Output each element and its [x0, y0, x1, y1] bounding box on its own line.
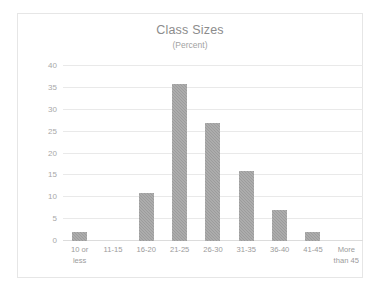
- bar-slot: [130, 66, 163, 241]
- y-axis-tick-label: 25: [48, 126, 57, 135]
- x-axis-tick-label: 36-40: [263, 245, 296, 266]
- bar-slot: [163, 66, 196, 241]
- bar[interactable]: [172, 84, 187, 242]
- x-axis-tick-label: 16-20: [130, 245, 163, 266]
- x-axis-tick-label: 11-15: [96, 245, 129, 266]
- chart-title: Class Sizes: [18, 23, 362, 38]
- y-axis-tick-label: 40: [48, 61, 57, 70]
- bar-slot: [96, 66, 129, 241]
- y-axis-tick-label: 35: [48, 82, 57, 91]
- chart-title-block: Class Sizes (Percent): [18, 23, 362, 51]
- bar[interactable]: [239, 171, 254, 241]
- bar[interactable]: [205, 123, 220, 241]
- bar-slot: [63, 66, 96, 241]
- bar-series: [63, 66, 363, 241]
- bar-slot: [263, 66, 296, 241]
- y-axis-tick-label: 30: [48, 104, 57, 113]
- bar[interactable]: [272, 210, 287, 241]
- y-axis-tick-label: 20: [48, 148, 57, 157]
- plot-area: 0510152025303540: [63, 66, 363, 241]
- bar-slot: [296, 66, 329, 241]
- bar-slot: [330, 66, 363, 241]
- x-axis-tick-label: 41-45: [296, 245, 329, 266]
- chart-subtitle: (Percent): [18, 39, 362, 51]
- bar[interactable]: [72, 232, 87, 241]
- bar[interactable]: [139, 193, 154, 241]
- bar-slot: [196, 66, 229, 241]
- y-axis-tick-label: 0: [53, 236, 57, 245]
- y-axis-tick-label: 10: [48, 192, 57, 201]
- x-axis-tick-label: 21-25: [163, 245, 196, 266]
- bar-slot: [230, 66, 263, 241]
- y-axis-tick-label: 15: [48, 170, 57, 179]
- y-axis-tick-label: 5: [53, 214, 57, 223]
- x-axis-tick-labels: 10 or less11-1516-2021-2526-3031-3536-40…: [63, 245, 363, 266]
- x-axis-tick-label: 31-35: [230, 245, 263, 266]
- x-axis-tick-label: 10 or less: [63, 245, 96, 266]
- x-axis-tick-label: More than 45: [330, 245, 363, 266]
- bar[interactable]: [305, 232, 320, 241]
- x-axis-tick-label: 26-30: [196, 245, 229, 266]
- chart-container: Class Sizes (Percent) 0510152025303540 1…: [17, 13, 363, 278]
